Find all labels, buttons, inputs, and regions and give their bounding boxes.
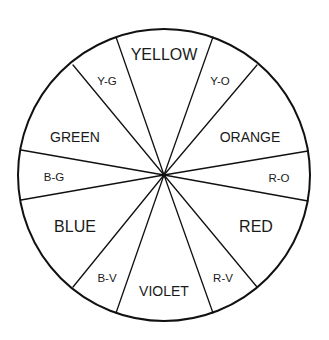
color-wheel-diagram: YELLOW Y-O ORANGE R-O RED R-V VIOLET B-V… bbox=[0, 0, 329, 340]
label-green: GREEN bbox=[50, 129, 100, 145]
label-red-violet: R-V bbox=[213, 272, 233, 284]
label-blue-violet: B-V bbox=[97, 272, 117, 284]
label-blue: BLUE bbox=[54, 218, 96, 235]
label-yellow-green: Y-G bbox=[97, 75, 116, 87]
label-orange: ORANGE bbox=[220, 129, 281, 145]
wheel-center bbox=[162, 173, 166, 177]
label-red-orange: R-O bbox=[268, 172, 289, 184]
label-yellow-orange: Y-O bbox=[210, 75, 229, 87]
label-red: RED bbox=[239, 218, 273, 235]
label-yellow: YELLOW bbox=[131, 46, 199, 63]
label-violet: VIOLET bbox=[139, 283, 189, 299]
label-blue-green: B-G bbox=[44, 171, 65, 183]
